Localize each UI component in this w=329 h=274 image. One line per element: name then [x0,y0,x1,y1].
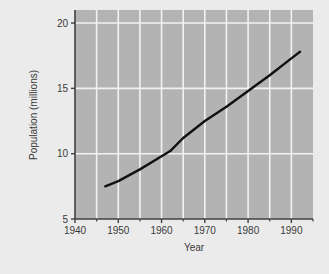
y-tick-label: 15 [57,83,69,94]
plot-area-background [75,10,313,219]
x-tick-label: 1980 [237,225,260,236]
x-tick-label: 1960 [150,225,173,236]
y-axis-title: Population (millions) [28,70,39,160]
y-tick-label: 20 [57,18,69,29]
y-tick-label: 5 [62,214,68,225]
x-tick-label: 1990 [280,225,303,236]
figure-canvas: 5101520 194019501960197019801990 Year Po… [0,0,329,274]
x-tick-label: 1950 [107,225,130,236]
x-tick-label: 1940 [64,225,87,236]
x-axis-title: Year [184,242,205,253]
x-tick-label: 1970 [194,225,217,236]
y-tick-label: 10 [57,148,69,159]
line-chart: 5101520 194019501960197019801990 Year Po… [0,0,329,274]
